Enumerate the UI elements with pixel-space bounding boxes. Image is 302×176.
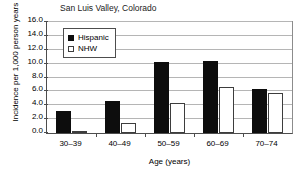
bar-group (194, 22, 243, 133)
y-tick-label: 8.0 (13, 71, 43, 80)
y-tick-label: 14.0 (13, 29, 43, 38)
y-tick-mark (44, 77, 48, 78)
y-tick-mark (44, 49, 48, 50)
x-tick-label: 30–39 (46, 139, 95, 148)
x-tick-mark (145, 133, 146, 137)
bar-nhw (170, 103, 185, 133)
y-tick-label: 4.0 (13, 98, 43, 107)
legend-label: Hispanic (78, 33, 109, 42)
y-tick-label: 12.0 (13, 43, 43, 52)
bar-hispanic (252, 89, 267, 133)
bar-hispanic (56, 111, 71, 133)
y-tick-mark (44, 90, 48, 91)
y-tick-label: 2.0 (13, 112, 43, 121)
legend-entry: NHW (68, 43, 109, 54)
y-tick-mark (44, 104, 48, 105)
x-tick-mark (96, 133, 97, 137)
x-tick-label: 70–74 (242, 139, 291, 148)
x-tick-label: 50–59 (144, 139, 193, 148)
x-axis-title: Age (years) (46, 157, 293, 166)
y-tick-label: 0.0 (13, 126, 43, 135)
bar-nhw (268, 93, 283, 133)
x-tick-mark (243, 133, 244, 137)
y-tick-mark (44, 132, 48, 133)
chart-legend: HispanicNHW (63, 28, 116, 58)
x-tick-mark (194, 133, 195, 137)
x-tick-label: 60–69 (193, 139, 242, 148)
legend-swatch-nhw (68, 46, 74, 52)
y-tick-label: 6.0 (13, 84, 43, 93)
bar-nhw (121, 123, 136, 133)
chart-title: San Luis Valley, Colorado (60, 3, 157, 13)
y-tick-mark (44, 63, 48, 64)
bar-hispanic (105, 101, 120, 133)
bar-chart-figure: San Luis Valley, Colorado Incidence per … (0, 0, 302, 176)
y-tick-label: 10.0 (13, 57, 43, 66)
x-tick-label: 40–49 (95, 139, 144, 148)
bar-nhw (72, 131, 87, 133)
legend-swatch-hispanic (68, 35, 74, 41)
plot-area: HispanicNHW (46, 21, 293, 134)
y-tick-mark (44, 21, 48, 22)
y-tick-label: 16.0 (13, 15, 43, 24)
legend-label: NHW (78, 44, 97, 53)
bar-group (243, 22, 292, 133)
y-tick-mark (44, 35, 48, 36)
legend-entry: Hispanic (68, 32, 109, 43)
bar-hispanic (154, 62, 169, 133)
bar-nhw (219, 87, 234, 133)
bar-group (145, 22, 194, 133)
bar-hispanic (203, 61, 218, 133)
y-tick-mark (44, 118, 48, 119)
